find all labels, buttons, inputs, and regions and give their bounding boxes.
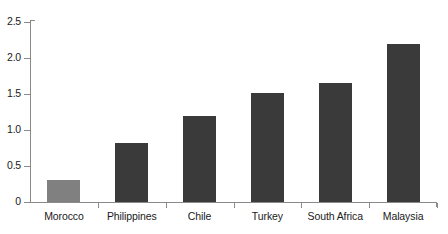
x-axis-tick xyxy=(437,203,438,208)
y-axis-tick xyxy=(24,166,30,167)
bar-chart: 00.51.01.52.02.5 MoroccoPhilippinesChile… xyxy=(0,0,448,234)
y-axis-tick-label: 0.5 xyxy=(0,159,21,171)
bar xyxy=(251,93,284,202)
bar xyxy=(115,143,148,202)
x-axis-tick xyxy=(369,203,370,208)
x-axis-tick xyxy=(98,203,99,208)
x-axis-label: Malaysia xyxy=(369,210,437,222)
y-axis-top-cap xyxy=(30,20,35,21)
y-axis-tick-label: 0 xyxy=(0,195,21,207)
y-axis-tick-label: 2.5 xyxy=(0,15,21,27)
x-axis-label: South Africa xyxy=(301,210,369,222)
x-axis-tick xyxy=(301,203,302,208)
y-axis-tick xyxy=(24,58,30,59)
bar xyxy=(47,180,80,202)
y-axis-tick-label: 1.5 xyxy=(0,87,21,99)
y-axis-line xyxy=(30,20,31,203)
x-axis-label: Chile xyxy=(166,210,234,222)
x-axis-label: Turkey xyxy=(234,210,302,222)
y-axis-tick-label: 1.0 xyxy=(0,123,21,135)
bar xyxy=(387,44,420,202)
x-axis-label: Morocco xyxy=(30,210,98,222)
y-axis-tick xyxy=(24,130,30,131)
y-axis-tick xyxy=(24,94,30,95)
bar xyxy=(319,83,352,202)
x-axis-tick xyxy=(166,203,167,208)
x-axis-label: Philippines xyxy=(98,210,166,222)
y-axis-tick xyxy=(24,22,30,23)
y-axis-tick xyxy=(24,202,30,203)
bar xyxy=(183,116,216,202)
x-axis-tick xyxy=(234,203,235,208)
y-axis-tick-label: 2.0 xyxy=(0,51,21,63)
